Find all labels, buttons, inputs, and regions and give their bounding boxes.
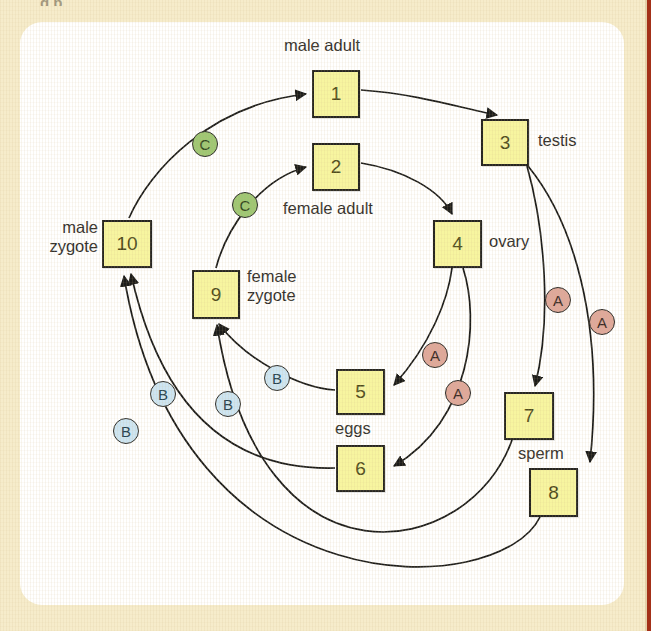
- caption-female-adult: female adult: [283, 199, 413, 218]
- node-box-3[interactable]: 3: [481, 119, 529, 166]
- edge-1-to-3: [361, 90, 497, 115]
- caption-male-zygote: male zygote: [20, 218, 98, 257]
- node-box-10[interactable]: 10: [102, 220, 152, 268]
- caption-male-adult: male adult: [284, 36, 394, 55]
- node-box-2[interactable]: 2: [312, 143, 360, 191]
- caption-sperm: sperm: [518, 444, 580, 463]
- marker-a-1[interactable]: A: [422, 342, 448, 368]
- marker-b-1[interactable]: B: [264, 365, 290, 391]
- caption-testis: testis: [538, 131, 608, 150]
- caption-ovary: ovary: [489, 232, 559, 251]
- node-box-4[interactable]: 4: [433, 220, 482, 268]
- node-box-8[interactable]: 8: [529, 468, 578, 517]
- edge-3-to-7: [527, 166, 545, 386]
- marker-b-4[interactable]: B: [113, 418, 139, 444]
- node-box-6[interactable]: 6: [336, 445, 385, 492]
- caption-female-zygote: female zygote: [247, 267, 337, 306]
- node-box-7[interactable]: 7: [504, 392, 554, 440]
- marker-a-2[interactable]: A: [445, 380, 471, 406]
- edge-4-to-5: [394, 268, 452, 385]
- marker-b-3[interactable]: B: [150, 381, 176, 407]
- marker-c-2[interactable]: C: [232, 192, 258, 218]
- edge-10-to-1: [129, 94, 306, 218]
- node-box-9[interactable]: 9: [192, 270, 240, 319]
- marker-a-3[interactable]: A: [545, 287, 571, 313]
- node-box-5[interactable]: 5: [336, 369, 385, 415]
- edge-8-to-10: [124, 276, 540, 567]
- marker-a-4[interactable]: A: [589, 309, 615, 335]
- node-box-1[interactable]: 1: [312, 70, 360, 118]
- marker-b-2[interactable]: B: [215, 391, 241, 417]
- marker-c-1[interactable]: C: [192, 131, 218, 157]
- scanned-page: g p: [0, 0, 651, 631]
- page-edge-stripe: [647, 0, 651, 631]
- caption-eggs: eggs: [335, 419, 387, 438]
